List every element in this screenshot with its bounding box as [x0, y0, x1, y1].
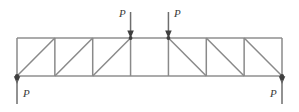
diagonal-member-3: [93, 38, 131, 76]
truss-svg-canvas: [0, 0, 299, 112]
vertical-members-group: [17, 38, 282, 76]
diagonal-member-6: [206, 38, 244, 76]
top-load-1-label: P: [119, 8, 126, 19]
diagonal-member-1: [17, 38, 55, 76]
diagonal-member-5: [168, 38, 206, 76]
diagonal-members-group: [17, 38, 282, 76]
joint-marker-support-left: [15, 74, 19, 78]
joint-marker-load-1: [129, 36, 133, 40]
truss-diagram-figure: P P P P: [0, 0, 299, 112]
reaction-right-label: P: [270, 88, 277, 99]
reaction-left-label: P: [23, 88, 30, 99]
joint-marker-support-right: [280, 74, 284, 78]
joint-marker-load-2: [167, 36, 171, 40]
top-loads-group: [127, 12, 171, 38]
top-load-2-label: P: [174, 8, 181, 19]
diagonal-member-7: [244, 38, 282, 76]
support-reactions-group: [14, 76, 286, 104]
diagonal-member-2: [55, 38, 93, 76]
